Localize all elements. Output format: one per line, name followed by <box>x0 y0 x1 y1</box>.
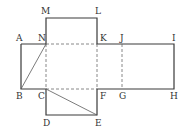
diagonal-ce <box>46 89 97 115</box>
label-n: N <box>38 33 46 43</box>
label-h: H <box>170 91 178 101</box>
label-g: G <box>119 91 126 101</box>
cube-net-diagram: M L A N K J I B C F G H D E <box>0 0 186 132</box>
label-m: M <box>41 6 50 16</box>
label-j: J <box>119 33 124 43</box>
label-l: L <box>95 6 101 16</box>
diagonal-nb <box>21 44 46 89</box>
label-i: I <box>172 33 176 43</box>
label-d: D <box>43 118 50 128</box>
label-k: K <box>100 33 107 43</box>
label-a: A <box>15 33 23 43</box>
label-e: E <box>95 118 102 128</box>
label-f: F <box>100 91 106 101</box>
label-b: B <box>16 91 23 101</box>
label-c: C <box>38 91 45 101</box>
